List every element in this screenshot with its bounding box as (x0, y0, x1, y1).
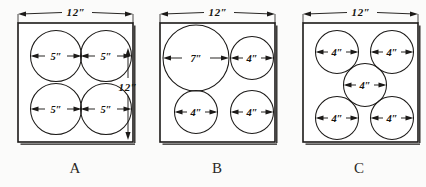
figure-c-caption: C (339, 160, 379, 177)
circle-c-top-left-label: 4″ (330, 47, 342, 58)
circle-c-top-right-label: 4″ (385, 47, 397, 58)
figure-c: 12″ 4″ (0, 0, 426, 187)
figure-c-top-dim-label: 12″ (352, 6, 371, 18)
figures-container: 12″ 12″ 5 (0, 0, 426, 187)
figure-b-caption: B (197, 160, 237, 177)
circle-c-center-label: 4″ (358, 80, 370, 91)
figure-c-top-dimension: 12″ (303, 6, 418, 23)
figure-a-caption: A (55, 160, 95, 177)
circle-c-bottom-left-label: 4″ (330, 113, 342, 124)
figure-sheet: 12″ 12″ 5 (0, 0, 426, 187)
circle-c-bottom-right-label: 4″ (385, 113, 397, 124)
